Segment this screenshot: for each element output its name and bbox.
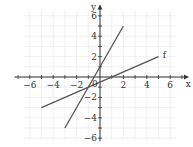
graph-svg: −6−4−2246−6−4−2246 x y 0 f <box>0 0 193 147</box>
function-graph: −6−4−2246−6−4−2246 x y 0 f <box>0 0 193 147</box>
origin-label: 0 <box>92 79 98 89</box>
svg-text:−6: −6 <box>23 80 37 90</box>
svg-text:−4: −4 <box>47 80 61 90</box>
svg-text:6: 6 <box>167 80 173 90</box>
svg-text:−4: −4 <box>84 113 98 123</box>
x-axis-label: x <box>186 79 191 89</box>
svg-text:−2: −2 <box>84 92 97 102</box>
svg-text:4: 4 <box>144 80 150 90</box>
svg-text:6: 6 <box>91 11 97 21</box>
svg-text:2: 2 <box>91 52 97 62</box>
svg-text:2: 2 <box>121 80 127 90</box>
axes <box>15 5 189 142</box>
line-f-label: f <box>163 50 167 60</box>
y-axis-label: y <box>90 2 97 12</box>
svg-text:4: 4 <box>91 31 97 41</box>
svg-text:−6: −6 <box>84 133 98 143</box>
svg-text:−2: −2 <box>70 80 83 90</box>
